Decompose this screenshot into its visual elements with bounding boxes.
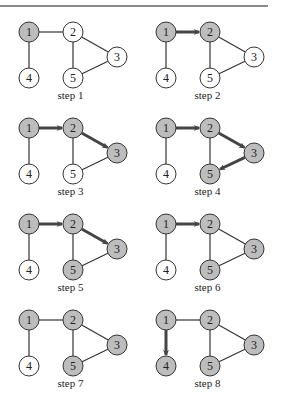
step-panel-1: 12345step 1 <box>0 0 141 97</box>
node-3: 3 <box>244 335 264 355</box>
graph-diagram: 12345 <box>0 0 141 97</box>
node-3: 3 <box>107 335 127 355</box>
node-2: 2 <box>63 118 83 138</box>
edge-3-5 <box>82 61 108 73</box>
svg-text:3: 3 <box>251 50 257 64</box>
svg-text:4: 4 <box>26 263 32 277</box>
node-4: 4 <box>156 164 176 184</box>
graph-diagram: 12345 <box>0 288 141 385</box>
step-panel-4: 12345step 4 <box>137 96 278 193</box>
step-panel-3: 12345step 3 <box>0 96 141 193</box>
graph-diagram: 12345 <box>137 0 278 97</box>
svg-text:4: 4 <box>163 359 169 373</box>
traversal-arrow-2-3 <box>82 229 108 244</box>
svg-text:3: 3 <box>114 242 120 256</box>
svg-text:4: 4 <box>163 167 169 181</box>
svg-text:5: 5 <box>207 359 213 373</box>
svg-text:5: 5 <box>70 167 76 181</box>
graph-diagram: 12345 <box>0 192 141 289</box>
edge-3-5 <box>219 253 245 265</box>
node-1: 1 <box>19 118 39 138</box>
node-4: 4 <box>156 356 176 376</box>
svg-text:5: 5 <box>207 71 213 85</box>
edge-3-5 <box>219 349 245 361</box>
node-2: 2 <box>63 310 83 330</box>
node-5: 5 <box>63 260 83 280</box>
svg-text:5: 5 <box>70 71 76 85</box>
svg-text:2: 2 <box>207 313 213 327</box>
edge-3-5 <box>82 157 108 169</box>
step-caption: step 7 <box>0 377 141 389</box>
edge-3-5 <box>82 253 108 265</box>
svg-text:1: 1 <box>26 217 32 231</box>
node-4: 4 <box>19 260 39 280</box>
node-2: 2 <box>200 214 220 234</box>
node-1: 1 <box>156 310 176 330</box>
graph-diagram: 12345 <box>137 192 278 289</box>
svg-text:3: 3 <box>251 338 257 352</box>
svg-text:3: 3 <box>114 338 120 352</box>
step-panel-8: 12345step 8 <box>137 288 278 385</box>
node-5: 5 <box>200 68 220 88</box>
node-1: 1 <box>19 310 39 330</box>
svg-text:2: 2 <box>70 121 76 135</box>
node-2: 2 <box>63 214 83 234</box>
node-5: 5 <box>63 164 83 184</box>
node-1: 1 <box>19 22 39 42</box>
node-4: 4 <box>19 356 39 376</box>
svg-text:1: 1 <box>26 25 32 39</box>
node-1: 1 <box>156 118 176 138</box>
node-3: 3 <box>244 47 264 67</box>
svg-text:5: 5 <box>207 263 213 277</box>
svg-text:1: 1 <box>163 313 169 327</box>
node-2: 2 <box>200 22 220 42</box>
svg-text:2: 2 <box>207 121 213 135</box>
svg-text:5: 5 <box>70 359 76 373</box>
node-5: 5 <box>200 260 220 280</box>
node-4: 4 <box>19 164 39 184</box>
svg-text:4: 4 <box>26 167 32 181</box>
edge-3-5 <box>82 349 108 361</box>
step-caption: step 8 <box>137 377 278 389</box>
svg-text:2: 2 <box>70 313 76 327</box>
step-panel-6: 12345step 6 <box>137 192 278 289</box>
svg-text:4: 4 <box>163 263 169 277</box>
node-1: 1 <box>156 214 176 234</box>
svg-text:1: 1 <box>163 121 169 135</box>
svg-text:2: 2 <box>70 217 76 231</box>
graph-diagram: 12345 <box>137 96 278 193</box>
edge-2-3 <box>219 37 246 52</box>
svg-text:4: 4 <box>163 71 169 85</box>
node-5: 5 <box>63 68 83 88</box>
step-panel-7: 12345step 7 <box>0 288 141 385</box>
node-3: 3 <box>244 143 264 163</box>
node-4: 4 <box>19 68 39 88</box>
svg-text:1: 1 <box>163 25 169 39</box>
edge-2-3 <box>219 229 246 244</box>
step-panel-5: 12345step 5 <box>0 192 141 289</box>
node-2: 2 <box>200 310 220 330</box>
traversal-arrow-3-5 <box>220 157 245 169</box>
edge-2-3 <box>82 325 109 340</box>
step-panel-2: 12345step 2 <box>137 0 278 97</box>
node-3: 3 <box>107 143 127 163</box>
svg-text:4: 4 <box>26 359 32 373</box>
node-1: 1 <box>156 22 176 42</box>
svg-text:5: 5 <box>207 167 213 181</box>
traversal-arrow-2-3 <box>219 133 245 148</box>
node-4: 4 <box>156 68 176 88</box>
traversal-arrow-2-3 <box>82 133 108 148</box>
svg-text:3: 3 <box>114 50 120 64</box>
node-5: 5 <box>63 356 83 376</box>
svg-text:1: 1 <box>26 313 32 327</box>
node-5: 5 <box>200 356 220 376</box>
svg-text:2: 2 <box>207 25 213 39</box>
node-3: 3 <box>244 239 264 259</box>
graph-diagram: 12345 <box>0 96 141 193</box>
node-4: 4 <box>156 260 176 280</box>
edge-2-3 <box>82 37 109 52</box>
svg-text:5: 5 <box>70 263 76 277</box>
edge-3-5 <box>219 61 245 73</box>
svg-text:1: 1 <box>163 217 169 231</box>
node-1: 1 <box>19 214 39 234</box>
